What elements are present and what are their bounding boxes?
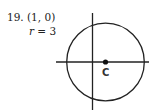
circle-diagram: C bbox=[0, 0, 157, 112]
center-label: C bbox=[102, 67, 109, 78]
center-point bbox=[103, 59, 108, 64]
